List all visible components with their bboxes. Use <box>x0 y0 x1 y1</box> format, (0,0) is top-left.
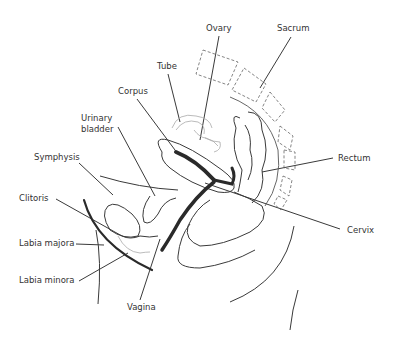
label-clitoris: Clitoris <box>19 193 49 203</box>
labels: Ovary Sacrum Tube Corpus Urinary bladder… <box>19 23 374 312</box>
label-labia-majora: Labia majora <box>19 238 74 248</box>
label-cervix: Cervix <box>347 225 374 235</box>
label-vagina: Vagina <box>127 302 156 312</box>
label-labia-minora: Labia minora <box>19 275 75 285</box>
leader-lines <box>56 36 340 300</box>
pelvis-anatomy-diagram: Ovary Sacrum Tube Corpus Urinary bladder… <box>0 0 393 346</box>
label-rectum: Rectum <box>338 153 370 163</box>
label-ovary: Ovary <box>206 23 231 33</box>
label-urinary-bladder-line1: Urinary <box>81 113 112 123</box>
rectum-shape <box>234 112 266 203</box>
uterus-shape <box>158 139 234 250</box>
label-symphysis: Symphysis <box>34 152 80 162</box>
label-urinary-bladder-line2: bladder <box>81 124 114 134</box>
label-corpus: Corpus <box>118 86 148 96</box>
label-sacrum: Sacrum <box>277 23 309 33</box>
label-tube: Tube <box>156 61 177 71</box>
